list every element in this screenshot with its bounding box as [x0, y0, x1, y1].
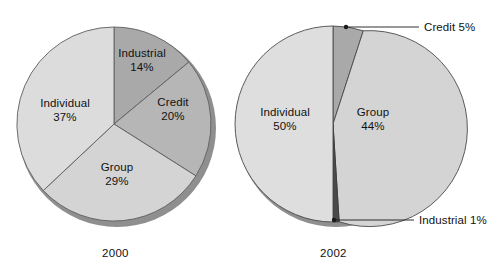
pie-2000-label-credit: Credit 20%	[147, 96, 199, 123]
pie-2002-callout-credit: Credit 5%	[424, 21, 475, 34]
pie-2002-label-individual: Individual 50%	[249, 106, 321, 133]
pie-2000-label-group-value: 29%	[88, 175, 146, 189]
pie-2002-label-individual-name: Individual	[249, 106, 321, 120]
pie-2002-label-group-value: 44%	[345, 120, 401, 134]
pie-2000-label-individual-value: 37%	[29, 111, 101, 125]
pie-2002-label-group-name: Group	[345, 106, 401, 120]
chart-caption-2002: 2002	[320, 247, 347, 259]
pie-2000-label-industrial-value: 14%	[107, 61, 177, 75]
pie-2000-label-group-name: Group	[88, 161, 146, 175]
pie-2002-label-group: Group 44%	[345, 106, 401, 133]
pie-2000-label-industrial: Industrial 14%	[107, 47, 177, 74]
pie-2000-label-group: Group 29%	[88, 161, 146, 188]
pie-2000-label-credit-name: Credit	[147, 96, 199, 110]
pie-2002-callout-industrial: Industrial 1%	[419, 214, 487, 227]
pie-2002-label-individual-value: 50%	[249, 120, 321, 134]
pie-2000-label-credit-value: 20%	[147, 110, 199, 124]
pie-2000-label-individual-name: Individual	[29, 97, 101, 111]
two-pie-charts-figure	[0, 0, 503, 279]
pie-2000-label-individual: Individual 37%	[29, 97, 101, 124]
chart-caption-2000: 2000	[102, 247, 129, 259]
pie-2000-label-industrial-name: Industrial	[107, 47, 177, 61]
